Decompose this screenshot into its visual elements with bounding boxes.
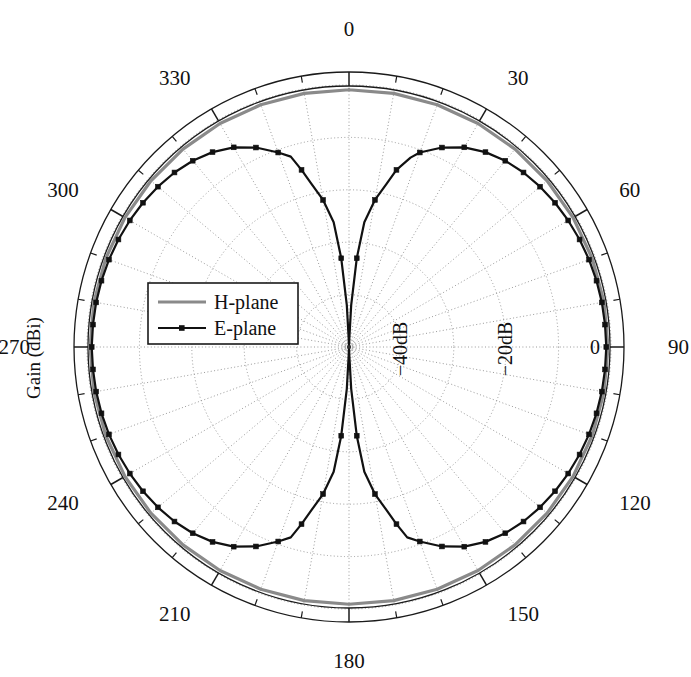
angle-tick-label-210: 210 bbox=[159, 602, 191, 626]
axis-labels-layer: 0306090120150180210240270300330−40dB−20d… bbox=[0, 17, 689, 673]
angle-tick-label-240: 240 bbox=[47, 491, 79, 515]
polar-radiation-pattern-figure: 0306090120150180210240270300330−40dB−20d… bbox=[0, 0, 691, 677]
polar-plot-svg: 0306090120150180210240270300330−40dB−20d… bbox=[0, 0, 691, 677]
radial-tick-label-1: −20dB bbox=[494, 322, 516, 377]
polar-grid bbox=[87, 85, 611, 609]
legend: H-planeE-plane bbox=[148, 283, 298, 344]
angle-tick-label-120: 120 bbox=[619, 491, 651, 515]
legend-label-e-plane: E-plane bbox=[214, 317, 276, 340]
axis-title-gain: Gain (dBi) bbox=[23, 317, 45, 399]
angle-tick-label-150: 150 bbox=[508, 602, 540, 626]
legend-label-h-plane: H-plane bbox=[214, 291, 279, 314]
angle-tick-label-300: 300 bbox=[47, 178, 79, 202]
angle-tick-label-30: 30 bbox=[508, 66, 529, 90]
angle-tick-label-330: 330 bbox=[159, 66, 191, 90]
angle-tick-label-180: 180 bbox=[333, 649, 365, 673]
angle-tick-label-90: 90 bbox=[668, 335, 689, 359]
radial-tick-label-0: −40dB bbox=[389, 322, 411, 377]
angle-tick-label-0: 0 bbox=[344, 17, 355, 41]
angle-tick-label-60: 60 bbox=[619, 178, 640, 202]
radial-tick-label-2: 0 bbox=[590, 336, 600, 358]
